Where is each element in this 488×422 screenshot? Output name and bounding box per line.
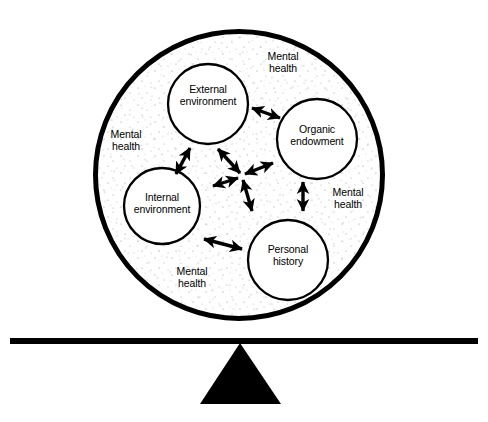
balance-fulcrum bbox=[200, 343, 281, 404]
diagram-canvas bbox=[0, 0, 488, 422]
node-circle-personal-history bbox=[248, 220, 328, 300]
node-circle-external-environment bbox=[168, 64, 248, 144]
mental-health-balance-diagram: External environment Organic endowment I… bbox=[0, 0, 488, 422]
balance-beam bbox=[10, 338, 478, 344]
node-circle-organic-endowment bbox=[277, 99, 357, 179]
node-circle-internal-environment bbox=[124, 168, 200, 244]
